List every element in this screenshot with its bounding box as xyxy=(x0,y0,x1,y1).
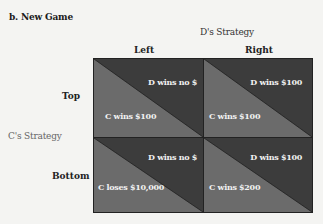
row-label-top: Top xyxy=(62,91,80,101)
cell-diagonal-split xyxy=(94,59,203,137)
d-payoff: D wins no $ xyxy=(148,152,197,162)
d-payoff: D wins no $ xyxy=(148,77,197,87)
column-player-label: D's Strategy xyxy=(200,27,254,37)
c-payoff: C wins $200 xyxy=(209,182,260,192)
cell-diagonal-split xyxy=(204,138,312,212)
cell-top-right: D wins $100 C wins $100 xyxy=(204,59,312,137)
c-payoff: C wins $100 xyxy=(209,111,260,121)
row-label-bottom: Bottom xyxy=(52,171,89,181)
cell-bottom-left: D wins no $ C loses $10,000 xyxy=(94,138,203,212)
payoff-matrix: D wins no $ C wins $100 D wins $100 C wi… xyxy=(93,58,313,213)
c-payoff: C wins $100 xyxy=(105,111,156,121)
row-player-label: C's Strategy xyxy=(8,131,62,141)
cell-top-left: D wins no $ C wins $100 xyxy=(94,59,203,137)
figure-title: b. New Game xyxy=(9,12,73,22)
column-label-right: Right xyxy=(245,45,273,55)
cell-bottom-right: D wins $100 C wins $200 xyxy=(204,138,312,212)
cell-diagonal-split xyxy=(94,138,203,212)
c-payoff: C loses $10,000 xyxy=(98,182,164,192)
cell-diagonal-split xyxy=(204,59,312,137)
d-payoff: D wins $100 xyxy=(250,152,302,162)
column-label-left: Left xyxy=(134,45,154,55)
d-payoff: D wins $100 xyxy=(250,77,302,87)
